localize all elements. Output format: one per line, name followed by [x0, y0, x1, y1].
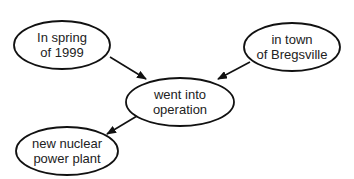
edge-time-to-event — [110, 57, 146, 79]
edge-event-to-subject — [107, 116, 137, 134]
node-time-label: In spring of 1999 — [37, 30, 87, 60]
node-time-line2: of 1999 — [37, 45, 87, 60]
node-subject-line2: power plant — [32, 151, 102, 166]
node-event-line2: operation — [153, 102, 207, 117]
node-place-label: in town of Bregsville — [257, 32, 328, 62]
node-time-line1: In spring — [37, 30, 87, 45]
node-place-line1: in town — [257, 32, 328, 47]
node-event-label: went into operation — [153, 87, 207, 117]
edge-place-to-event — [218, 62, 250, 79]
node-subject-label: new nuclear power plant — [32, 136, 102, 166]
node-event-line1: went into — [153, 87, 207, 102]
node-place-line2: of Bregsville — [257, 47, 328, 62]
node-subject-line1: new nuclear — [32, 136, 102, 151]
